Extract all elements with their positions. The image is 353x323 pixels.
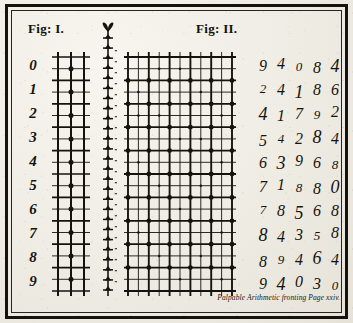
fig-1-title: Fig: I. bbox=[28, 21, 64, 37]
fig-1-minor-dot bbox=[57, 208, 60, 211]
row-label-0: 0 bbox=[20, 57, 46, 74]
fig-2-minor-dot bbox=[220, 161, 223, 164]
fig-2-dot bbox=[188, 218, 193, 223]
numeral-row: 24186 bbox=[244, 78, 344, 102]
fig-1-dot bbox=[69, 230, 74, 235]
divider-arrowhead bbox=[105, 94, 111, 99]
divider-arrowhead bbox=[105, 34, 111, 39]
fig-2-dot bbox=[188, 265, 193, 270]
fig-2-dot bbox=[167, 265, 172, 270]
fig-2-dot bbox=[146, 195, 151, 200]
numeral-cell: 0 bbox=[326, 178, 344, 196]
numeral-row: 71880 bbox=[244, 175, 344, 199]
divider-finial bbox=[103, 23, 114, 32]
divider-arrowhead bbox=[105, 205, 111, 210]
numeral-cell: 9 bbox=[308, 108, 326, 121]
divider-side-dash bbox=[115, 226, 117, 227]
numeral-row: 54284 bbox=[244, 127, 344, 151]
fig-2-dot bbox=[146, 265, 151, 270]
divider-side-dash bbox=[115, 182, 117, 183]
divider-arrowhead bbox=[105, 256, 111, 261]
fig-1-minor-dot bbox=[83, 138, 86, 141]
fig-2-dot bbox=[209, 265, 214, 270]
divider-side-dash bbox=[115, 270, 117, 271]
numeral-cell: 1 bbox=[272, 108, 290, 124]
fig-2-dot bbox=[167, 148, 172, 153]
divider-arrowhead bbox=[105, 64, 111, 69]
ornamental-divider bbox=[99, 22, 117, 300]
numeral-cell: 8 bbox=[308, 181, 326, 197]
numeral-cell: 7 bbox=[254, 179, 272, 195]
numeral-cell: 5 bbox=[308, 229, 326, 242]
fig-2-dot bbox=[126, 148, 131, 153]
fig-2-minor-dot bbox=[200, 91, 203, 94]
divider-side-dash bbox=[115, 72, 117, 73]
divider-side-dash bbox=[115, 193, 117, 194]
numeral-cell: 8 bbox=[254, 254, 272, 270]
plate-caption: Palpable Arithmetic fronting Page xxiv. bbox=[184, 293, 340, 302]
numeral-cell: 3 bbox=[272, 154, 290, 172]
fig-2-dot bbox=[146, 78, 151, 83]
divider-arrowhead bbox=[105, 125, 111, 130]
numeral-row: 84358 bbox=[244, 223, 344, 247]
numeral-cell: 9 bbox=[290, 153, 308, 169]
divider-arrowhead bbox=[105, 115, 111, 120]
divider-side-dash bbox=[115, 61, 117, 62]
numeral-row: 94084 bbox=[244, 54, 344, 78]
numeral-cell: 1 bbox=[290, 83, 308, 101]
fig-2-dot bbox=[188, 125, 193, 130]
fig-2-dot bbox=[188, 195, 193, 200]
numeral-cell: 4 bbox=[254, 105, 272, 123]
fig-2-dot bbox=[167, 101, 172, 106]
fig-2-dot bbox=[230, 195, 235, 200]
fig-1-dot bbox=[69, 113, 74, 118]
fig-1-minor-dot bbox=[83, 278, 86, 281]
divider-side-dash bbox=[115, 50, 117, 51]
divider-arrowhead bbox=[105, 215, 111, 220]
fig-2-dot bbox=[126, 195, 131, 200]
numeral-cell: 4 bbox=[326, 252, 344, 268]
numeral-cell: 4 bbox=[272, 229, 290, 245]
divider-arrowhead bbox=[105, 195, 111, 200]
fig-2-grid bbox=[124, 52, 236, 296]
fig-2-dot bbox=[209, 218, 214, 223]
fig-1-dot bbox=[69, 66, 74, 71]
fig-2-dot bbox=[167, 218, 172, 223]
fig-2-minor-dot bbox=[137, 161, 140, 164]
numeral-cell: 5 bbox=[254, 133, 272, 149]
fig-2-dot bbox=[230, 78, 235, 83]
numeral-cell: 8 bbox=[308, 128, 326, 146]
fig-2-dot bbox=[146, 172, 151, 177]
numeral-cell: 4 bbox=[272, 82, 290, 98]
fig-2-dot bbox=[209, 242, 214, 247]
numeral-cell: 4 bbox=[326, 57, 344, 75]
fig-2-dot bbox=[126, 78, 131, 83]
row-label-5: 5 bbox=[20, 177, 46, 194]
divider-arrowhead bbox=[105, 44, 111, 49]
numeral-cell: 9 bbox=[272, 253, 290, 266]
divider-arrowhead bbox=[105, 236, 111, 241]
fig-2-dot bbox=[126, 265, 131, 270]
numeral-cell: 8 bbox=[326, 203, 344, 219]
numeral-cell: 8 bbox=[326, 225, 344, 241]
numeral-cell: 3 bbox=[308, 276, 326, 292]
divider-arrowhead bbox=[105, 54, 111, 59]
numeral-cell: 8 bbox=[308, 60, 326, 76]
row-label-1: 1 bbox=[20, 81, 46, 98]
numeral-cell: 9 bbox=[254, 58, 272, 74]
fig-2-dot bbox=[167, 78, 172, 83]
numeral-cell: 7 bbox=[254, 203, 272, 216]
fig-2-minor-dot bbox=[200, 184, 203, 187]
fig-2-title: Fig: II. bbox=[196, 21, 237, 37]
divider-arrowhead bbox=[105, 226, 111, 231]
divider-side-dash bbox=[115, 149, 117, 150]
fig-2-minor-dot bbox=[158, 184, 161, 187]
fig-2-dot bbox=[146, 148, 151, 153]
fig-2-dot bbox=[146, 101, 151, 106]
divider-side-dash bbox=[115, 248, 117, 249]
fig-2-minor-dot bbox=[137, 231, 140, 234]
fig-2-dot bbox=[209, 172, 214, 177]
fig-2-dot bbox=[126, 172, 131, 177]
fig-1-minor-dot bbox=[83, 184, 86, 187]
numeral-row: 89464 bbox=[244, 248, 344, 272]
